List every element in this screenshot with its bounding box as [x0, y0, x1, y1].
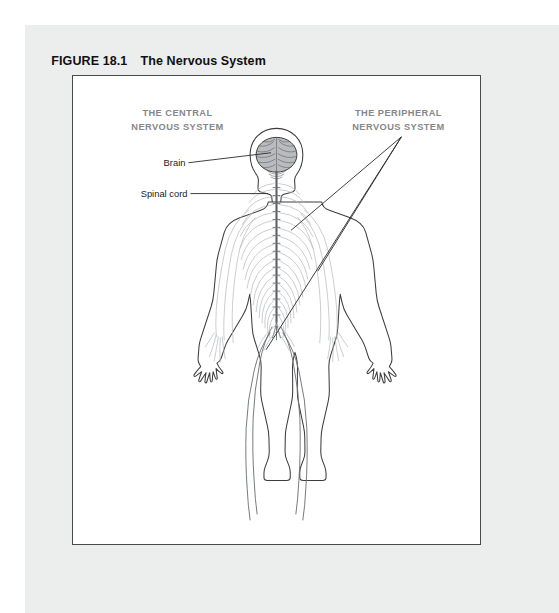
figure-title-text: The Nervous System: [140, 54, 265, 68]
callout-label-spinal-cord: Spinal cord: [141, 189, 188, 199]
figure-panel: FIGURE 18.1The Nervous System THE CENTRA…: [25, 25, 559, 613]
caption-peripheral-line1: THE PERIPHERAL: [355, 108, 442, 118]
figure-number: FIGURE 18.1: [51, 54, 127, 68]
caption-central-line2: NERVOUS SYSTEM: [131, 122, 223, 132]
figure-frame: THE CENTRAL NERVOUS SYSTEM THE PERIPHERA…: [72, 75, 481, 545]
caption-central-line1: THE CENTRAL: [142, 108, 212, 118]
nervous-system-diagram: THE CENTRAL NERVOUS SYSTEM THE PERIPHERA…: [73, 76, 480, 544]
caption-peripheral-line2: NERVOUS SYSTEM: [352, 122, 444, 132]
caption-peripheral-nervous-system: THE PERIPHERAL NERVOUS SYSTEM: [352, 108, 444, 132]
callout-label-brain: Brain: [164, 158, 186, 168]
caption-central-nervous-system: THE CENTRAL NERVOUS SYSTEM: [131, 108, 223, 132]
